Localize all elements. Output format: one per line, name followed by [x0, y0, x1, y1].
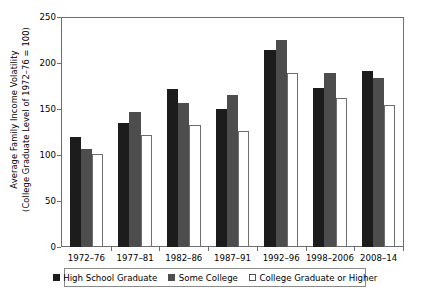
y-axis-tick-label: 200 [30, 58, 56, 68]
y-axis-tick-label: 150 [30, 104, 56, 114]
x-axis-tick-label: 1977–81 [117, 253, 154, 263]
bar-college [287, 73, 298, 247]
x-axis-tick-label: 1992–96 [263, 253, 300, 263]
bar-college [189, 125, 200, 247]
bar-group [362, 18, 396, 247]
bar-hs [70, 137, 81, 247]
legend-swatch-icon-high-school-graduate [53, 274, 60, 281]
bar-college [92, 154, 103, 247]
bar-group [167, 18, 201, 247]
y-axis-tick-label: 0 [30, 242, 56, 252]
bar-some [81, 149, 92, 247]
bar-hs [216, 109, 227, 247]
x-axis-tick-mark [403, 247, 404, 251]
legend-swatch-icon-college-graduate-or-higher [249, 274, 256, 281]
y-axis-tick-label: 50 [30, 196, 56, 206]
x-axis-tick-mark [257, 247, 258, 251]
legend-item-some-college: Some College [168, 273, 238, 283]
bar-college [384, 105, 395, 247]
y-axis-tick-mark [57, 247, 61, 248]
y-axis-title-line-1: Average Family Income Volatility [9, 8, 21, 232]
x-axis-tick-mark [208, 247, 209, 251]
y-axis-title: Average Family Income Volatility (Colleg… [0, 0, 40, 250]
chart-legend: High School Graduate Some College Colleg… [64, 268, 366, 287]
bar-some [373, 78, 384, 247]
bar-group [118, 18, 152, 247]
x-axis-tick-mark [159, 247, 160, 251]
bar-some [129, 112, 140, 247]
bars-layer [62, 18, 403, 247]
bar-hs [362, 71, 373, 247]
legend-item-college-graduate-or-higher: College Graduate or Higher [249, 273, 377, 283]
y-axis-tick-label: 100 [30, 150, 56, 160]
x-axis-tick-label: 2008–14 [360, 253, 397, 263]
bar-group [264, 18, 298, 247]
bar-chart: Average Family Income Volatility (Colleg… [0, 0, 429, 295]
y-axis-tick-label: 250 [30, 12, 56, 22]
legend-item-high-school-graduate: High School Graduate [53, 273, 158, 283]
bar-group [70, 18, 104, 247]
legend-label-high-school-graduate: High School Graduate [63, 273, 157, 283]
bar-some [324, 73, 335, 247]
bar-group [216, 18, 250, 247]
bar-hs [264, 50, 275, 247]
bar-some [178, 103, 189, 247]
x-axis-tick-label: 1982–86 [165, 253, 202, 263]
bar-hs [167, 89, 178, 247]
legend-label-college-graduate-or-higher: College Graduate or Higher [259, 273, 377, 283]
x-axis-tick-mark [306, 247, 307, 251]
legend-swatch-icon-some-college [168, 274, 175, 281]
bar-some [276, 40, 287, 247]
bar-college [238, 131, 249, 247]
bar-college [336, 98, 347, 247]
x-axis-tick-label: 1972–76 [68, 253, 105, 263]
x-axis-tick-label: 1987–91 [214, 253, 251, 263]
bar-some [227, 95, 238, 247]
bar-hs [118, 123, 129, 247]
x-axis-tick-label: 1998–2006 [306, 253, 354, 263]
x-axis-tick-mark [354, 247, 355, 251]
bar-group [313, 18, 347, 247]
x-axis-tick-mark [111, 247, 112, 251]
bar-hs [313, 88, 324, 247]
bar-college [141, 135, 152, 247]
legend-label-some-college: Some College [179, 273, 238, 283]
